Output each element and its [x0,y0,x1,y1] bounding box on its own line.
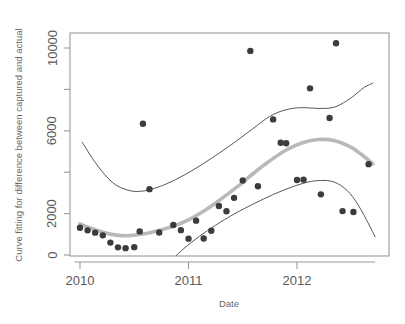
scatter-point [178,227,184,233]
y-tick-label: 0 [45,251,60,258]
scatter-point [100,232,106,238]
y-tick-label: 10000 [45,30,60,66]
scatter-point [278,140,284,146]
x-tick-label: 2012 [283,273,312,288]
lower-confidence-band-line [169,180,375,262]
scatter-point [318,191,324,197]
scatter-point [216,203,222,209]
x-tick-label: 2010 [66,273,95,288]
scatter-point [193,217,199,223]
x-tick-label: 2011 [175,273,203,288]
y-axis-tick-labels: 02000600010000 [45,30,60,259]
scatter-point [231,195,237,201]
scatter-point [131,244,137,250]
scatter-point [140,121,146,127]
chart-container: 02000600010000 201020112012 Date Curve f… [0,0,405,324]
scatter-point [365,161,371,167]
fitted-curve-line [80,139,373,235]
scatter-plot-svg: 02000600010000 201020112012 Date Curve f… [0,0,405,324]
scatter-point [270,116,276,122]
scatter-point [77,224,83,230]
upper-confidence-band-line [82,83,373,191]
scatter-point [208,228,214,234]
scatter-point [107,239,113,245]
x-axis-title: Date [219,298,239,309]
scatter-point [307,85,313,91]
scatter-point [185,235,191,241]
scatter-point [294,177,300,183]
scatter-point [350,209,356,215]
x-axis-tick-labels: 201020112012 [66,273,312,288]
scatter-point [146,186,152,192]
y-axis-title: Curve fitting for difference between cap… [13,28,24,261]
y-tick-label: 6000 [45,116,60,145]
scatter-point [223,208,229,214]
scatter-point [200,235,206,241]
y-axis-ticks [64,48,70,255]
scatter-point [247,48,253,54]
scatter-point [333,40,339,46]
scatter-point [300,176,306,182]
y-tick-label: 2000 [45,199,60,228]
scatter-point [170,222,176,228]
scatter-point [156,229,162,235]
scatter-point [326,115,332,121]
scatter-point [92,229,98,235]
scatter-point [122,245,128,251]
scatter-point [115,244,121,250]
scatter-point [136,228,142,234]
scatter-point [84,227,90,233]
scatter-point [255,183,261,189]
scatter-point [283,140,289,146]
x-axis-ticks [75,262,376,269]
scatter-point [339,208,345,214]
scatter-point [240,177,246,183]
